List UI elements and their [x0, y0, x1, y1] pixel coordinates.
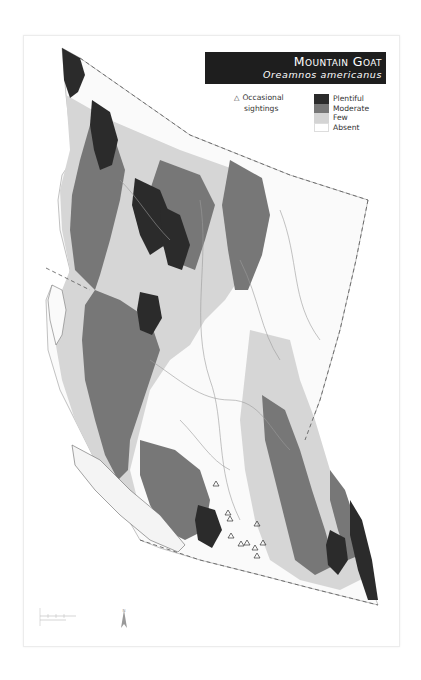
species-common-name: Mountain Goat: [205, 54, 382, 69]
legend-occasional-label-1: Occasional: [242, 93, 283, 102]
map-title-box: Mountain Goat Oreamnos americanus: [205, 52, 386, 84]
legend-label: Plentiful: [333, 94, 364, 104]
svg-text:N: N: [123, 608, 126, 613]
north-arrow-icon: N: [118, 608, 130, 630]
absent-swatch: [314, 123, 329, 133]
legend-item-few: Few: [314, 113, 369, 123]
legend-label: Moderate: [333, 104, 369, 114]
species-scientific-name: Oreamnos americanus: [205, 69, 382, 81]
plentiful-swatch: [314, 94, 329, 104]
legend-label: Few: [333, 113, 348, 123]
legend-item-moderate: Moderate: [314, 104, 369, 114]
abundance-legend: Plentiful Moderate Few Absent: [314, 94, 369, 132]
moderate-swatch: [314, 104, 329, 114]
scale-bar-icon: [38, 604, 78, 634]
legend-occasional-sightings: △Occasional sightings: [234, 93, 284, 113]
legend-item-plentiful: Plentiful: [314, 94, 369, 104]
legend-label: Absent: [333, 123, 359, 133]
legend-item-absent: Absent: [314, 123, 369, 133]
legend-occasional-label-2: sightings: [234, 104, 284, 114]
triangle-outline-icon: △: [234, 94, 239, 104]
few-swatch: [314, 113, 329, 123]
